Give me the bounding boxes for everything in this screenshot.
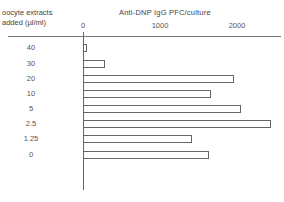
category-label: 20: [27, 74, 35, 83]
x-tick-label: 1000: [152, 21, 169, 30]
bar: [83, 135, 192, 143]
bar: [83, 151, 209, 159]
category-label: 5: [29, 104, 33, 113]
category-label: 30: [27, 59, 35, 68]
bar: [83, 75, 234, 83]
bar: [83, 60, 105, 68]
category-label: 0: [29, 150, 33, 159]
x-axis-line: [8, 36, 281, 37]
y-axis-title-line-2: added (µl/ml): [2, 18, 52, 28]
bar: [83, 44, 87, 52]
y-axis-title: oocyte extracts added (µl/ml): [2, 8, 52, 28]
bar: [83, 90, 211, 98]
bar: [83, 105, 241, 113]
category-label: 10: [27, 89, 35, 98]
x-axis-title: Anti-DNP IgG PFC/culture: [119, 8, 211, 17]
category-label: 1.25: [24, 134, 39, 143]
x-tick-label: 0: [81, 21, 85, 30]
category-label: 40: [27, 43, 35, 52]
x-tick-label: 2000: [229, 21, 246, 30]
bar: [83, 120, 271, 128]
y-axis-title-line-1: oocyte extracts: [2, 8, 52, 18]
category-label: 2.5: [26, 119, 36, 128]
